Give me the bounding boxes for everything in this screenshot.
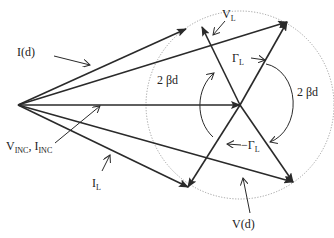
pointer-incident	[55, 106, 100, 143]
rotation-arc-right	[266, 64, 293, 142]
label-neg-gamma-load: −ΓL	[241, 138, 260, 154]
label-i-d: I(d)	[17, 45, 35, 59]
label-v-d: V(d)	[232, 217, 255, 231]
pointer-i-d	[54, 56, 90, 65]
pointer-neg-gamma-load	[227, 144, 241, 145]
label-gamma-load: ΓL	[232, 51, 244, 67]
label-two-beta-d-right: 2 βd	[297, 85, 318, 99]
label-i-load: IL	[92, 176, 101, 192]
transmission-line-phasor-diagram: I(d) VL ΓL 2 βd 2 βd VINC, IINC −ΓL IL V…	[0, 0, 334, 238]
pointer-v-d	[243, 178, 250, 213]
vector-neg-gamma-load	[188, 105, 240, 187]
vector-i-d	[18, 29, 186, 105]
pointer-gamma-load	[251, 58, 265, 60]
phasor-vectors	[18, 22, 293, 187]
label-incident: VINC, IINC	[6, 139, 52, 155]
label-two-beta-d-left: 2 βd	[157, 73, 178, 87]
pointer-i-load	[102, 155, 110, 171]
label-v-load: VL	[222, 7, 236, 23]
pointer-v-load	[213, 21, 225, 35]
label-pointers	[54, 21, 265, 213]
